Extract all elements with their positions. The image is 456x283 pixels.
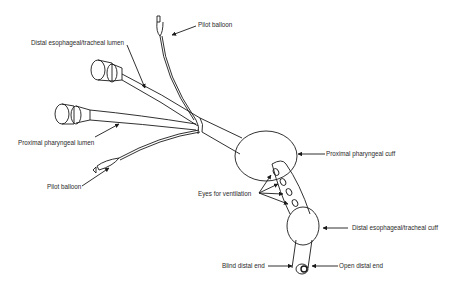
label-pilot-balloon-bottom: Pilot balloon — [47, 184, 81, 190]
proximal-lumen-connector — [55, 104, 196, 130]
distal-cuff — [287, 207, 319, 245]
ventilation-eyes — [272, 168, 299, 208]
pilot-balloon-bottom — [93, 130, 200, 173]
label-distal-cuff: Distal esophageal/tracheal cuff — [352, 225, 438, 231]
proximal-cuff — [235, 131, 297, 181]
label-blind-distal-end: Blind distal end — [222, 263, 265, 269]
main-tube — [196, 118, 242, 154]
label-open-distal-end: Open distal end — [339, 263, 383, 269]
airway-tube-diagram: Pilot balloon Distal esophageal/tracheal… — [0, 0, 456, 283]
label-pilot-balloon-top: Pilot balloon — [198, 22, 232, 28]
label-eyes-for-ventilation: Eyes for ventilation — [198, 191, 251, 197]
label-proximal-cuff: Proximal pharyngeal cuff — [326, 151, 395, 157]
label-distal-lumen: Distal esophageal/tracheal lumen — [31, 40, 124, 46]
pilot-balloon-top — [157, 16, 196, 120]
label-proximal-lumen: Proximal pharyngeal lumen — [18, 140, 94, 146]
